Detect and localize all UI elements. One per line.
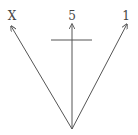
arrow-x [11, 26, 72, 129]
label-x: X [8, 9, 17, 23]
arrow-diagram: X 5 1 [0, 0, 138, 135]
diagram-canvas: X 5 1 [0, 0, 138, 135]
label-1: 1 [122, 9, 130, 23]
label-5: 5 [68, 9, 76, 23]
